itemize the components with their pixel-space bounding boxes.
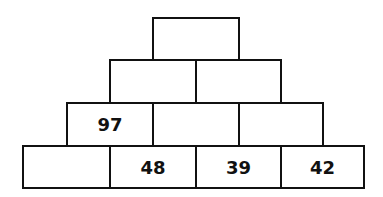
pyramid-cell-r4-c4[interactable]: 42 [280,145,365,189]
pyramid-cell-r3-c3[interactable] [238,102,324,147]
pyramid-cell-r2-c2[interactable] [195,59,282,104]
pyramid-cell-r4-c3[interactable]: 39 [195,145,282,189]
pyramid-cell-r3-c2[interactable] [152,102,240,147]
pyramid-cell-r4-c2[interactable]: 48 [109,145,197,189]
pyramid-cell-r2-c1[interactable] [109,59,197,104]
pyramid-cell-r4-c1[interactable] [22,145,111,189]
pyramid-cell-r1-c1[interactable] [152,17,240,61]
pyramid-cell-r3-c1[interactable]: 97 [66,102,154,147]
